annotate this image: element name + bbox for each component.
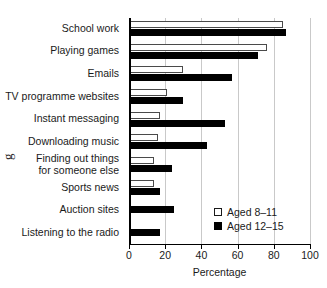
bar-aged-12-15 bbox=[129, 142, 207, 149]
legend-label: Aged 12–15 bbox=[227, 220, 284, 232]
gridline bbox=[310, 18, 311, 245]
category-label-column: School workPlaying gamesEmailsTV program… bbox=[0, 18, 125, 245]
bar-row bbox=[129, 18, 310, 41]
bar-aged-12-15 bbox=[129, 120, 225, 127]
bar-row bbox=[129, 41, 310, 64]
legend: Aged 8–11Aged 12–15 bbox=[214, 205, 284, 233]
y-axis-line bbox=[129, 18, 131, 245]
category-label: Listening to the radio bbox=[0, 227, 125, 239]
legend-swatch-icon bbox=[214, 208, 222, 216]
bar-aged-12-15 bbox=[129, 74, 232, 81]
legend-label: Aged 8–11 bbox=[227, 206, 277, 218]
category-label: Auction sites bbox=[0, 204, 125, 216]
x-axis-title: Percentage bbox=[129, 266, 310, 278]
category-label: Downloading music bbox=[0, 136, 125, 148]
legend-item: Aged 12–15 bbox=[214, 219, 284, 233]
x-tick-label: 100 bbox=[295, 249, 325, 261]
bar-aged-8-11 bbox=[129, 180, 154, 187]
bar-chart: g School workPlaying gamesEmailsTV progr… bbox=[0, 0, 327, 288]
bar-aged-12-15 bbox=[129, 29, 286, 36]
bar-aged-12-15 bbox=[129, 165, 172, 172]
bar-row bbox=[129, 109, 310, 132]
category-label: Instant messaging bbox=[0, 113, 125, 125]
legend-item: Aged 8–11 bbox=[214, 205, 284, 219]
bar-aged-8-11 bbox=[129, 66, 183, 73]
x-tick-label: 40 bbox=[186, 249, 216, 261]
category-label: TV programme websites bbox=[0, 91, 125, 103]
bar-aged-8-11 bbox=[129, 44, 267, 51]
x-tick-label: 80 bbox=[259, 249, 289, 261]
x-tick-label: 20 bbox=[150, 249, 180, 261]
category-label: School work bbox=[0, 23, 125, 35]
bar-aged-12-15 bbox=[129, 206, 174, 213]
bar-row bbox=[129, 154, 310, 177]
bar-aged-8-11 bbox=[129, 89, 167, 96]
bar-aged-8-11 bbox=[129, 112, 160, 119]
bar-aged-12-15 bbox=[129, 229, 160, 236]
legend-swatch-icon bbox=[214, 222, 222, 230]
bar-aged-12-15 bbox=[129, 97, 183, 104]
category-label: Emails bbox=[0, 68, 125, 80]
category-label: Sports news bbox=[0, 182, 125, 194]
bar-aged-8-11 bbox=[129, 134, 158, 141]
x-axis-line bbox=[129, 244, 311, 245]
bar-aged-8-11 bbox=[129, 157, 154, 164]
x-tick-label: 0 bbox=[114, 249, 144, 261]
x-tick-label: 60 bbox=[223, 249, 253, 261]
bar-row bbox=[129, 86, 310, 109]
bar-row bbox=[129, 132, 310, 155]
bar-aged-12-15 bbox=[129, 188, 160, 195]
category-label: Playing games bbox=[0, 45, 125, 57]
category-label: Finding out thingsfor someone else bbox=[0, 153, 125, 176]
bar-aged-8-11 bbox=[129, 21, 283, 28]
bar-aged-12-15 bbox=[129, 52, 258, 59]
bar-row bbox=[129, 177, 310, 200]
bar-row bbox=[129, 63, 310, 86]
